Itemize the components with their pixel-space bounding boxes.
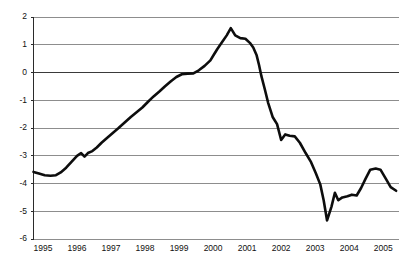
y-tick-label: -5 (19, 206, 27, 216)
line-chart: 210-1-2-3-4-5-6 199519961997199819992000… (0, 0, 420, 268)
x-tick-label: 1999 (170, 243, 189, 253)
x-tick-label: 1996 (68, 243, 87, 253)
x-tick-label: 1997 (102, 243, 121, 253)
x-tick-label: 2001 (238, 243, 257, 253)
y-tick-label: -3 (19, 150, 27, 160)
x-tick-label: 2004 (340, 243, 359, 253)
x-tick-label: 1998 (136, 243, 155, 253)
chart-container: 210-1-2-3-4-5-6 199519961997199819992000… (0, 0, 420, 268)
y-tick-label: -2 (19, 122, 27, 132)
y-tick-label: -4 (19, 178, 27, 188)
chart-background (0, 0, 420, 268)
y-tick-label: 0 (22, 67, 27, 77)
y-tick-label: 2 (22, 11, 27, 21)
x-tick-label: 1995 (34, 243, 53, 253)
x-tick-label: 2000 (204, 243, 223, 253)
x-tick-label: 2002 (272, 243, 291, 253)
x-tick-label: 2005 (374, 243, 393, 253)
y-tick-label: -6 (19, 233, 27, 243)
x-tick-label: 2003 (306, 243, 325, 253)
y-tick-label: 1 (22, 39, 27, 49)
y-tick-label: -1 (19, 95, 27, 105)
